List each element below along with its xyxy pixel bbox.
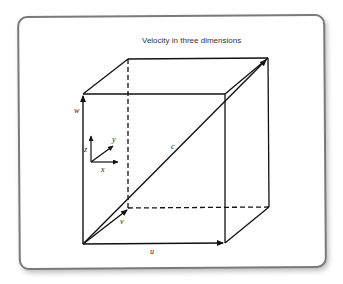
label-axis-y: y (111, 135, 116, 144)
label-c: c (171, 142, 175, 151)
label-axis-x: x (100, 165, 105, 174)
vector-v-arrow (83, 210, 127, 244)
bottom-right-connector (225, 207, 269, 243)
top-right-connector (225, 58, 268, 94)
vector-u-arrow (83, 243, 223, 244)
label-w: w (74, 106, 80, 115)
label-v: v (120, 217, 124, 226)
label-u: u (150, 247, 154, 256)
back-top-edge (128, 58, 268, 59)
label-axis-z: z (83, 145, 88, 154)
back-right-edge (268, 58, 269, 207)
hidden-bottom-edge (128, 207, 269, 208)
axis-y-arrow (91, 146, 113, 162)
top-left-connector (83, 59, 128, 94)
velocity-cube-diagram: w u v c z y x (0, 0, 343, 284)
vector-c-arrow (83, 60, 266, 244)
